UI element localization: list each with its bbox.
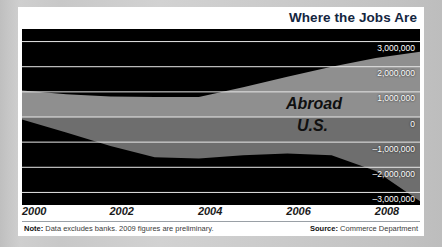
chart-header: Where the Jobs Are [18,7,424,29]
series-label-abroad: Abroad [286,95,342,113]
area-series-abroad [22,52,420,117]
note-label: Note: [24,224,43,233]
source-body: Commerce Department [338,224,418,233]
source-text: Source: Commerce Department [310,224,418,233]
page-title: Where the Jobs Are [289,10,417,25]
y-tick-label: –2,000,000 [372,169,415,179]
area-series-us [22,117,420,201]
x-tick-label: 2002 [109,205,133,217]
chart-footnote: Note: Data excludes banks. 2009 figures … [22,221,420,234]
y-tick-label: 2,000,000 [377,68,415,78]
y-tick-label: 3,000,000 [377,43,415,53]
chart-plot-area: Abroad U.S. 3,000,0002,000,0001,000,0000… [22,29,420,205]
chart-card: Where the Jobs Are Abroad U.S. 3,000,000… [18,7,424,236]
x-tick-label: 2004 [198,205,222,217]
x-tick-label: 2000 [22,205,46,217]
x-axis-tick-labels: 20002002200420062008 [22,205,420,221]
note-body: Data excludes banks. 2009 figures are pr… [43,224,213,233]
y-tick-label: 1,000,000 [377,93,415,103]
y-tick-label: –3,000,000 [372,194,415,204]
area-chart-svg [22,29,420,205]
page-background: Where the Jobs Are Abroad U.S. 3,000,000… [0,0,442,247]
note-text: Note: Data excludes banks. 2009 figures … [24,224,214,233]
source-label: Source: [310,224,338,233]
x-tick-label: 2006 [286,205,310,217]
series-label-us: U.S. [297,117,328,135]
y-tick-label: 0 [410,119,415,129]
x-tick-label: 2008 [375,205,399,217]
y-tick-label: –1,000,000 [372,144,415,154]
